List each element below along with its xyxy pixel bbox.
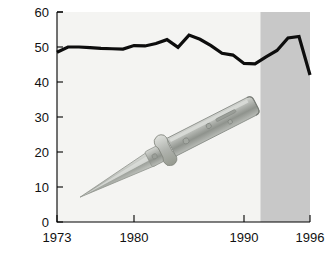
x-tick-label-1980: 1980 — [120, 230, 149, 245]
y-tick-label-50: 50 — [35, 40, 49, 55]
x-tick-label-1996: 1996 — [296, 230, 325, 245]
chart-container: 0102030405060 1973198019901996 — [0, 0, 332, 256]
x-tick-label-1973: 1973 — [43, 230, 72, 245]
line-chart: 0102030405060 1973198019901996 — [0, 0, 332, 256]
y-tick-label-60: 60 — [35, 5, 49, 20]
y-tick-label-40: 40 — [35, 75, 49, 90]
x-tick-label-1990: 1990 — [230, 230, 259, 245]
y-tick-label-0: 0 — [42, 215, 49, 230]
y-tick-label-30: 30 — [35, 110, 49, 125]
y-axis-tick-labels: 0102030405060 — [35, 5, 49, 230]
y-tick-label-10: 10 — [35, 180, 49, 195]
y-tick-label-20: 20 — [35, 145, 49, 160]
x-axis-tick-labels: 1973198019901996 — [43, 230, 325, 245]
